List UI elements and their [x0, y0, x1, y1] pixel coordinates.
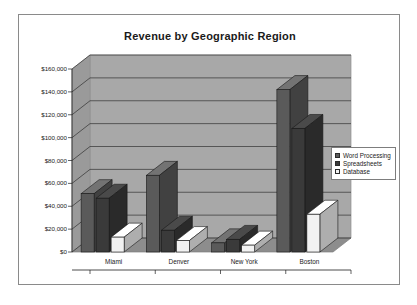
x-axis-tick-label: Denver	[169, 258, 190, 265]
x-axis-tick-label: Boston	[299, 258, 319, 265]
legend-swatch-icon	[335, 169, 340, 174]
y-axis-tick-label: $40,000	[17, 202, 67, 209]
y-axis-tick-label: $100,000	[17, 134, 67, 141]
legend-label: Word Processing	[343, 152, 391, 159]
y-axis-tick-label: $60,000	[17, 179, 67, 186]
y-axis-tick-label: $160,000	[17, 65, 67, 72]
legend-label: Spreadsheets	[343, 160, 382, 167]
x-axis-tick-label: Miami	[105, 258, 122, 265]
y-axis-tick-label: $120,000	[17, 111, 67, 118]
y-axis-tick-label: $0	[17, 248, 67, 255]
legend-entry: Word Processing	[335, 152, 391, 159]
y-axis-tick-label: $80,000	[17, 157, 67, 164]
legend-swatch-icon	[335, 161, 340, 166]
chart-legend: Word ProcessingSpreadsheetsDatabase	[331, 147, 396, 180]
legend-label: Database	[343, 168, 370, 175]
y-axis-tick-label: $20,000	[17, 225, 67, 232]
y-axis-labels: $0$20,000$40,000$60,000$80,000$100,000$1…	[11, 15, 67, 286]
legend-swatch-icon	[335, 153, 340, 158]
legend-entry: Database	[335, 168, 391, 175]
legend-entry: Spreadsheets	[335, 160, 391, 167]
x-axis-labels: MiamiDenverNew YorkBoston	[19, 258, 401, 278]
y-axis-tick-label: $140,000	[17, 88, 67, 95]
x-axis-tick-label: New York	[231, 258, 258, 265]
chart-frame: Revenue by Geographic Region $0$20,000$4…	[18, 14, 400, 285]
